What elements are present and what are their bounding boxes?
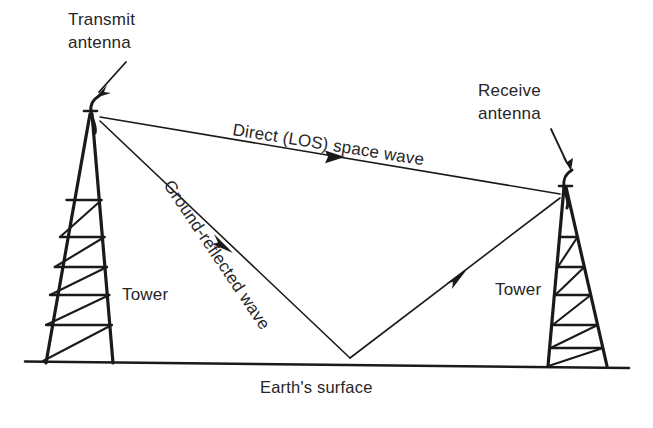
earth-surface-line-group <box>25 362 629 369</box>
tower-right-diagonal-1 <box>558 237 578 267</box>
earth-surface-line <box>25 362 629 369</box>
receive-antenna-label-line1: Receive <box>478 81 541 100</box>
tower-left-diagonal-1 <box>60 200 102 237</box>
transmit-tower <box>43 114 113 363</box>
transmit-antenna-leader-line <box>99 62 126 92</box>
ground-reflected-incident-line <box>100 121 350 358</box>
diagram-canvas: Transmit antenna Receive antenna Direct … <box>0 0 653 428</box>
transmit-antenna-label-line2: antenna <box>68 33 131 52</box>
tower-right-diagonal-2 <box>555 267 584 295</box>
tower-right-diagonal-5 <box>549 348 604 366</box>
ground-reflected-reflected-arrowhead <box>447 268 468 289</box>
transmit-antenna-label-line1: Transmit <box>68 10 135 29</box>
tower-right-leg-outer <box>566 187 607 366</box>
tower-label-right: Tower <box>495 280 541 299</box>
transmit-antenna-leader <box>95 62 126 98</box>
tower-left-diagonal-3 <box>50 267 107 295</box>
receive-antenna-leader <box>551 129 573 171</box>
receive-tower <box>548 187 607 366</box>
tower-label-left: Tower <box>122 285 168 304</box>
tower-right-leg-inner <box>548 187 564 366</box>
tower-right-diagonal-3 <box>553 295 591 325</box>
radio-propagation-diagram: Transmit antenna Receive antenna Direct … <box>0 0 653 428</box>
tower-right-diagonal-4 <box>551 325 598 348</box>
earth-surface-label: Earth's surface <box>260 378 373 396</box>
tower-left-diagonal-2 <box>55 237 105 267</box>
ground-reflected-ray-incident <box>100 121 350 358</box>
ground-reflected-wave-label: Ground-reflected wave <box>160 177 274 334</box>
receive-antenna-label-line2: antenna <box>478 104 541 123</box>
receive-antenna-leader-line <box>551 129 567 163</box>
ground-reflected-ray-reflected <box>350 198 560 358</box>
